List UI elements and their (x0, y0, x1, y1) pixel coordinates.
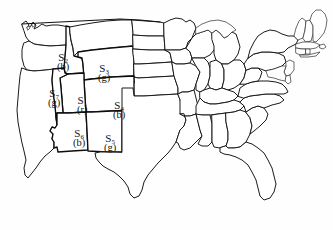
symbol-subscript-s7: 7 (55, 93, 59, 101)
symbol-subscript-s4: 4 (120, 105, 124, 113)
state-label-s3: S3(g) (98, 63, 110, 84)
state-label-s1: S1(r) (77, 95, 88, 116)
state-label-s6: S6(b) (73, 128, 85, 149)
us-map-figure: S2(b)S3(g)S7(g)S1(r)S4(b)S6(b)S5(g) (0, 0, 333, 230)
state-label-layer: S2(b)S3(g)S7(g)S1(r)S4(b)S6(b)S5(g) (0, 0, 333, 230)
symbol-subscript-s5: 5 (111, 138, 115, 146)
symbol-subscript-s6: 6 (80, 133, 84, 141)
state-label-s4: S4(b) (113, 100, 125, 121)
symbol-subscript-s1: 1 (84, 100, 88, 108)
state-label-s5: S5(g) (104, 133, 116, 154)
state-label-s2: S2(b) (57, 52, 69, 73)
symbol-subscript-s3: 3 (105, 68, 109, 76)
symbol-subscript-s2: 2 (64, 57, 68, 65)
state-label-s7: S7(g) (48, 88, 60, 109)
